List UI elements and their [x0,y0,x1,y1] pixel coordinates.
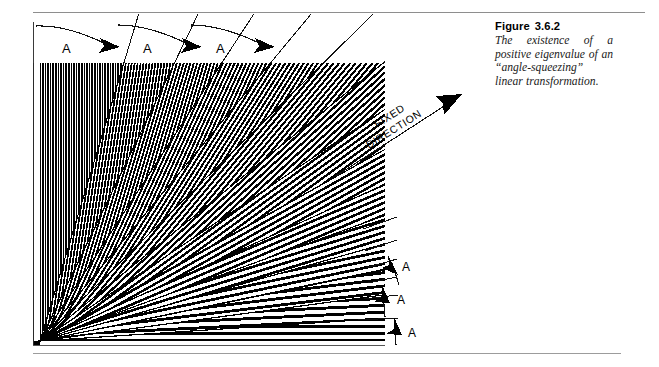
top-arc-group-3: A [191,25,275,56]
fixed-direction-arrowhead [436,94,462,115]
figure-artwork: A A A FIXED DIRECTION [0,0,470,367]
upper-rays [124,14,385,63]
right-arrow-label-2: A [397,293,405,307]
figure-caption-title: Figure3.6.2 [495,20,613,32]
figure-number: 3.6.2 [535,20,560,32]
right-arrow-group-3: A [386,317,416,345]
right-arrow-label-3: A [408,326,416,340]
top-arc-label-2: A [143,41,152,56]
top-arc-group-1: A [36,26,120,56]
right-arrow-label-1: A [402,260,410,274]
figure-page: A A A FIXED DIRECTION [0,0,659,367]
figure-caption-text: The existence of a positive eigenvalue o… [495,34,613,88]
top-arc-label-3: A [216,41,225,56]
figure-label: Figure [495,20,530,32]
top-arc-label-1: A [62,41,71,56]
figure-caption: Figure3.6.2 The existence of a positive … [495,20,613,88]
